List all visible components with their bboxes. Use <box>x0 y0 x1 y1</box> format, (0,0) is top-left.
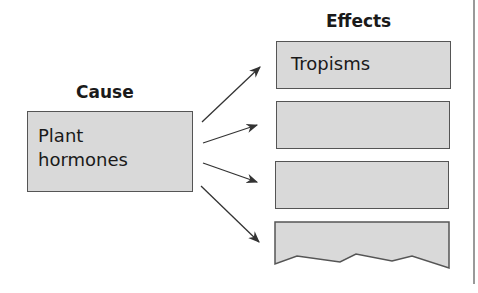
arrow-icon <box>201 67 260 242</box>
effect-box-4[interactable] <box>275 222 449 268</box>
diagram-graphics <box>0 0 478 293</box>
page-divider <box>473 0 475 284</box>
